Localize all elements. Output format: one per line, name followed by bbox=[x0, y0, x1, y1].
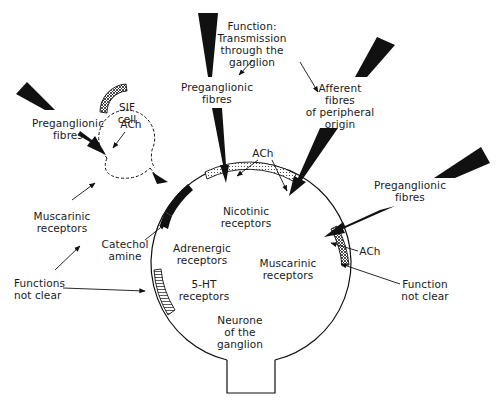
preganglionic-fibre-arrow-left bbox=[16, 82, 55, 110]
label-muscarinic-inner: Muscarinic receptors bbox=[253, 257, 323, 281]
label-neurone-of-the-ganglion: Neurone of the ganglion bbox=[205, 314, 275, 350]
label-preganglionic-top: Preganglionic fibres bbox=[177, 81, 257, 105]
afferent-fibre-arrow bbox=[355, 37, 395, 77]
label-functions-not-clear: Functions not clear bbox=[14, 277, 84, 301]
label-muscarinic-left: Muscarinic receptors bbox=[27, 210, 97, 234]
label-adrenergic-receptors: Adrenergic receptors bbox=[167, 242, 237, 266]
label-sif-cell: SIF cell bbox=[112, 101, 142, 125]
label-preganglionic-left: Preganglionic fibres bbox=[26, 117, 110, 141]
preganglionic-fibre-arrow-right bbox=[434, 147, 490, 178]
label-function-transmission: Function: Transmission through the gangl… bbox=[212, 20, 292, 68]
label-afferent-fibres: Afferent fibres of peripheral origin bbox=[298, 82, 382, 130]
label-catechol-amine: Catechol amine bbox=[95, 238, 155, 262]
label-5ht-receptors: 5-HT receptors bbox=[169, 278, 239, 302]
ganglion-diagram: Function: Transmission through the gangl… bbox=[0, 0, 500, 402]
adrenergic-receptor-patch bbox=[165, 184, 193, 216]
label-nicotinic-receptors: Nicotinic receptors bbox=[211, 205, 281, 229]
label-ach-right: ACh bbox=[355, 245, 385, 257]
label-preganglionic-right: Preganglionic fibres bbox=[368, 179, 452, 203]
label-ach-top: ACh bbox=[248, 147, 278, 159]
nicotinic-receptor-patch bbox=[205, 162, 296, 181]
label-function-not-clear-right: Function not clear bbox=[390, 278, 460, 302]
